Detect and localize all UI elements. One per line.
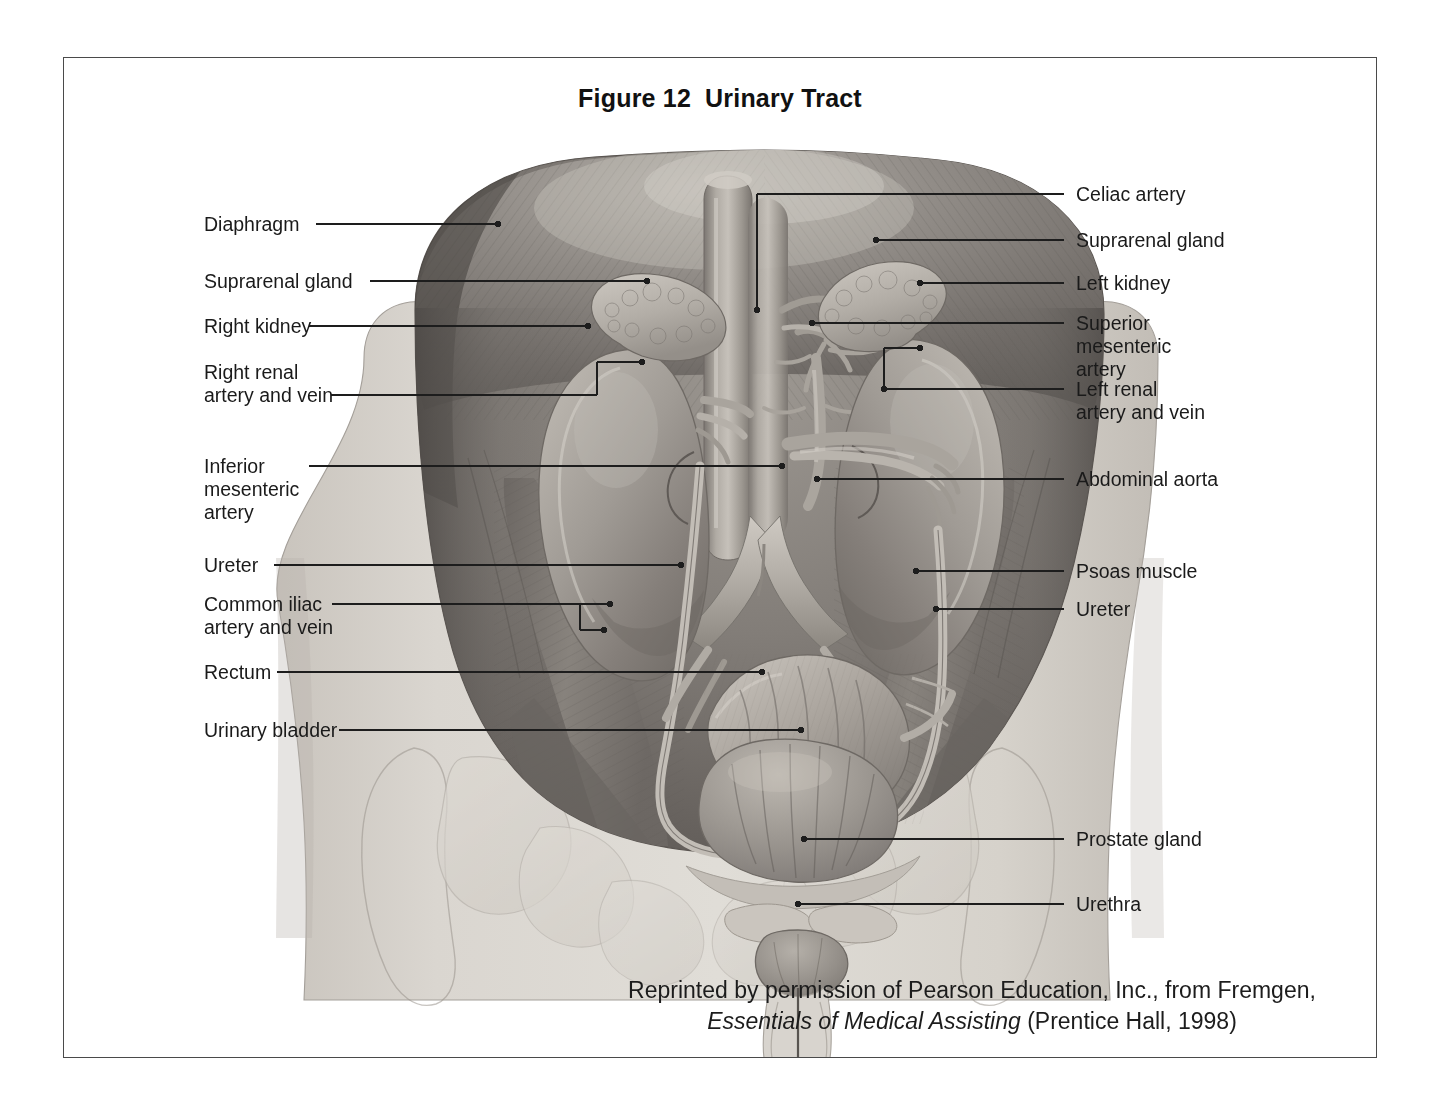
label-urinary-bladder: Urinary bladder xyxy=(204,719,337,742)
label-abdominal-aorta: Abdominal aorta xyxy=(1076,468,1218,491)
credit-line-2: Essentials of Medical Assisting (Prentic… xyxy=(592,1006,1352,1037)
anatomy-svg xyxy=(64,58,1377,1058)
credit-line-1: Reprinted by permission of Pearson Educa… xyxy=(592,975,1352,1006)
label-urethra: Urethra xyxy=(1076,893,1141,916)
label-ureter-right-col: Ureter xyxy=(1076,598,1130,621)
label-ureter-left-col: Ureter xyxy=(204,554,258,577)
credit-block: Reprinted by permission of Pearson Educa… xyxy=(592,975,1352,1037)
label-prostate-gland: Prostate gland xyxy=(1076,828,1202,851)
credit-publisher: (Prentice Hall, 1998) xyxy=(1021,1008,1237,1034)
credit-book-title: Essentials of Medical Assisting xyxy=(707,1008,1021,1034)
label-psoas-muscle: Psoas muscle xyxy=(1076,560,1197,583)
label-common-iliac-artery-and-vein: Common iliac artery and vein xyxy=(204,593,333,639)
label-suprarenal-gland-right-col: Suprarenal gland xyxy=(1076,229,1225,252)
label-superior-mesenteric-artery: Superior mesenteric artery xyxy=(1076,312,1171,381)
label-left-kidney: Left kidney xyxy=(1076,272,1170,295)
label-left-renal-artery-and-vein: Left renal artery and vein xyxy=(1076,378,1205,424)
label-right-kidney: Right kidney xyxy=(204,315,311,338)
label-rectum: Rectum xyxy=(204,661,271,684)
figure-frame: Figure 12Urinary Tract xyxy=(63,57,1377,1058)
urinary-tract-illustration xyxy=(64,58,1377,1058)
label-diaphragm: Diaphragm xyxy=(204,213,299,236)
label-suprarenal-gland-left-col: Suprarenal gland xyxy=(204,270,353,293)
label-inferior-mesenteric-artery: Inferior mesenteric artery xyxy=(204,455,299,524)
label-right-renal-artery-and-vein: Right renal artery and vein xyxy=(204,361,333,407)
label-celiac-artery: Celiac artery xyxy=(1076,183,1185,206)
